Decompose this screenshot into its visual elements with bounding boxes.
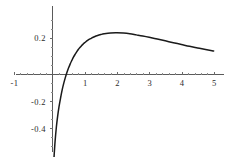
data-curve: [53, 33, 213, 157]
x-tick-label: 4: [180, 78, 185, 88]
y-tick-label: 0.2: [34, 33, 46, 43]
x-tick-label: 2: [115, 78, 120, 88]
x-tick-label: 3: [147, 78, 152, 88]
function-plot-figure: -1 1 2 3 4 5 0.2 -0.2 -0.4: [0, 0, 234, 157]
x-tick-label: 1: [83, 78, 88, 88]
y-tick-label: -0.2: [31, 97, 46, 107]
x-tick-label: -1: [10, 78, 18, 88]
plot-canvas: -1 1 2 3 4 5 0.2 -0.2 -0.4: [0, 0, 234, 157]
x-tick-label: 5: [212, 78, 217, 88]
y-tick-label: -0.4: [31, 124, 46, 134]
